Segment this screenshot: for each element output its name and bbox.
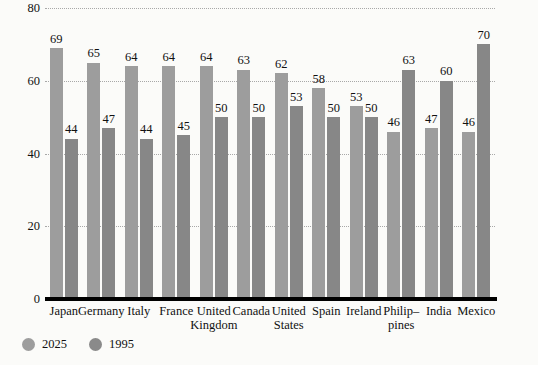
bar-chart: 806040200 694465476444644564506350625358…: [0, 0, 538, 365]
category-label-mexico: Mexico: [446, 305, 506, 319]
legend-circle-icon: [22, 338, 35, 351]
bar-value-label: 64: [149, 51, 189, 64]
bar-group: 6450: [200, 8, 228, 299]
bar-value-label: 62: [261, 58, 301, 71]
bar-value-label: 50: [201, 102, 241, 115]
bar-1995-ireland[interactable]: [365, 117, 378, 299]
bar-1995-italy[interactable]: [140, 139, 153, 299]
plot-area: 6944654764446445645063506253585053504663…: [45, 8, 495, 299]
bar-1995-france[interactable]: [177, 135, 190, 299]
bar-value-label: 60: [426, 65, 466, 78]
bar-value-label: 50: [351, 102, 391, 115]
legend-label: 1995: [109, 338, 134, 351]
bar-2025-japan[interactable]: [50, 48, 63, 299]
bar-2025-germany[interactable]: [87, 63, 100, 299]
bar-value-label: 53: [276, 91, 316, 104]
bar-group: 5350: [350, 8, 378, 299]
bar-group: 4663: [387, 8, 415, 299]
bar-value-label: 70: [464, 29, 504, 42]
bar-value-label: 47: [89, 113, 129, 126]
legend-item-2025[interactable]: 2025: [22, 338, 67, 351]
bar-value-label: 64: [111, 51, 151, 64]
y-axis: 806040200: [0, 8, 40, 299]
bar-value-label: 45: [164, 120, 204, 133]
bar-group: 4670: [462, 8, 490, 299]
bar-value-label: 44: [126, 123, 166, 136]
bars-layer: 6944654764446445645063506253585053504663…: [45, 8, 495, 299]
bar-value-label: 65: [74, 47, 114, 60]
bar-group: 4760: [425, 8, 453, 299]
legend-circle-icon: [89, 338, 102, 351]
bar-value-label: 50: [314, 102, 354, 115]
bar-1995-india[interactable]: [440, 81, 453, 299]
bar-1995-germany[interactable]: [102, 128, 115, 299]
bar-2025-united-states[interactable]: [275, 73, 288, 299]
bar-group: 6253: [275, 8, 303, 299]
y-axis-tick-40: 40: [0, 148, 40, 161]
y-axis-tick-80: 80: [0, 2, 40, 15]
bar-group: 5850: [312, 8, 340, 299]
bar-2025-spain[interactable]: [312, 88, 325, 299]
bar-2025-philip–pines[interactable]: [387, 132, 400, 299]
bar-2025-india[interactable]: [425, 128, 438, 299]
legend-label: 2025: [42, 338, 67, 351]
bar-1995-united-kingdom[interactable]: [215, 117, 228, 299]
bar-1995-spain[interactable]: [327, 117, 340, 299]
legend-item-1995[interactable]: 1995: [89, 338, 134, 351]
bar-1995-mexico[interactable]: [477, 44, 490, 299]
bar-2025-mexico[interactable]: [462, 132, 475, 299]
bar-1995-canada[interactable]: [252, 117, 265, 299]
bar-value-label: 63: [224, 54, 264, 67]
bar-1995-united-states[interactable]: [290, 106, 303, 299]
bar-value-label: 50: [239, 102, 279, 115]
bar-group: 6350: [237, 8, 265, 299]
y-axis-tick-20: 20: [0, 220, 40, 233]
bar-1995-philip–pines[interactable]: [402, 70, 415, 299]
bar-2025-italy[interactable]: [125, 66, 138, 299]
x-axis-line: [45, 297, 497, 301]
bar-1995-japan[interactable]: [65, 139, 78, 299]
bar-value-label: 69: [36, 33, 76, 46]
chart-legend: 20251995: [22, 338, 134, 351]
bar-value-label: 64: [186, 51, 226, 64]
bar-value-label: 58: [299, 73, 339, 86]
bar-value-label: 63: [389, 54, 429, 67]
bar-2025-france[interactable]: [162, 66, 175, 299]
y-axis-tick-0: 0: [0, 293, 40, 306]
bar-2025-ireland[interactable]: [350, 106, 363, 299]
bar-value-label: 44: [51, 123, 91, 136]
y-axis-tick-60: 60: [0, 75, 40, 88]
